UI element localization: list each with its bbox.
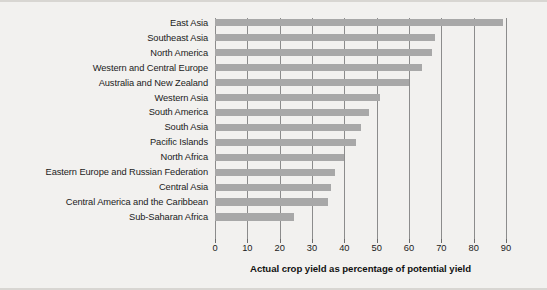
bar-track — [215, 61, 547, 76]
category-label: Western Asia — [0, 94, 208, 103]
bar — [215, 109, 369, 116]
bar-track — [215, 180, 547, 195]
category-label: South Asia — [0, 123, 208, 132]
x-axis-tick-label: 80 — [468, 244, 478, 253]
x-axis-tick-label: 60 — [404, 244, 414, 253]
category-label: Southeast Asia — [0, 34, 208, 43]
bar — [215, 49, 432, 56]
bar-track — [215, 16, 547, 31]
bar — [215, 79, 409, 86]
bar — [215, 213, 294, 220]
bar-row: Central Asia — [0, 180, 547, 195]
bar-row: Central America and the Caribbean — [0, 195, 547, 210]
bar-row: East Asia — [0, 16, 547, 31]
bar — [215, 184, 331, 191]
bar-row: Eastern Europe and Russian Federation — [0, 165, 547, 180]
bar-row: Western Asia — [0, 91, 547, 106]
bar-row: Pacific Islands — [0, 136, 547, 151]
x-axis-tick-label: 30 — [307, 244, 317, 253]
bar-track — [215, 46, 547, 61]
x-axis-tick-label: 10 — [242, 244, 252, 253]
category-label: North Africa — [0, 153, 208, 162]
bar-row: North Africa — [0, 150, 547, 165]
bar — [215, 169, 335, 176]
bar — [215, 19, 503, 26]
category-label: Eastern Europe and Russian Federation — [0, 168, 208, 177]
bar-row: Western and Central Europe — [0, 61, 547, 76]
bar-row: Australia and New Zealand — [0, 76, 547, 91]
category-label: Central Asia — [0, 183, 208, 192]
category-label: Western and Central Europe — [0, 64, 208, 73]
bar — [215, 64, 422, 71]
x-axis-tick-label: 40 — [339, 244, 349, 253]
bar-chart-figure: East AsiaSoutheast AsiaNorth AmericaWest… — [0, 0, 547, 290]
bar-track — [215, 165, 547, 180]
bar — [215, 198, 328, 205]
category-label: Pacific Islands — [0, 138, 208, 147]
bar-track — [215, 136, 547, 151]
category-label: South America — [0, 108, 208, 117]
bar — [215, 124, 361, 131]
bar — [215, 94, 380, 101]
bar-row: South America — [0, 106, 547, 121]
category-label: Sub-Saharan Africa — [0, 213, 208, 222]
bar-track — [215, 76, 547, 91]
bar-track — [215, 195, 547, 210]
x-axis-title: Actual crop yield as percentage of poten… — [215, 264, 506, 274]
chart-plot-area: East AsiaSoutheast AsiaNorth AmericaWest… — [0, 0, 547, 290]
bar-row: Southeast Asia — [0, 31, 547, 46]
bar — [215, 154, 344, 161]
bar-row: North America — [0, 46, 547, 61]
x-axis: 0102030405060708090 — [0, 239, 547, 257]
bar-track — [215, 210, 547, 225]
bar-row-group: East AsiaSoutheast AsiaNorth AmericaWest… — [0, 16, 547, 225]
x-axis-tick-label: 0 — [212, 244, 217, 253]
category-label: Australia and New Zealand — [0, 79, 208, 88]
bar-track — [215, 91, 547, 106]
bar — [215, 139, 356, 146]
category-label: North America — [0, 49, 208, 58]
category-label: Central America and the Caribbean — [0, 198, 208, 207]
bar-row: South Asia — [0, 121, 547, 136]
bar-row: Sub-Saharan Africa — [0, 210, 547, 225]
bar — [215, 34, 435, 41]
x-axis-tick-label: 90 — [501, 244, 511, 253]
bar-track — [215, 106, 547, 121]
bar-track — [215, 121, 547, 136]
bar-track — [215, 150, 547, 165]
x-axis-tick-label: 70 — [436, 244, 446, 253]
x-axis-tick-label: 20 — [274, 244, 284, 253]
x-axis-tick-label: 50 — [371, 244, 381, 253]
bar-track — [215, 31, 547, 46]
category-label: East Asia — [0, 19, 208, 28]
